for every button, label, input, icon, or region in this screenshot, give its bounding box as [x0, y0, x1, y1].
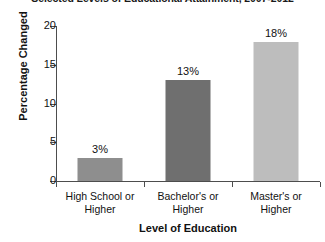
bar [166, 80, 211, 181]
bar-value-label: 3% [65, 143, 135, 155]
y-tick-label: 5 [12, 135, 56, 147]
plot-area: 3%13%18% [56, 26, 320, 181]
bar [78, 158, 123, 181]
x-tick-mark [56, 182, 57, 187]
bar-group: 13% [144, 26, 232, 181]
x-category-label: Master's orHigher [224, 190, 325, 216]
bar-group: 3% [56, 26, 144, 181]
x-category-label-line: Higher [224, 203, 325, 216]
x-category-label-line: Master's or [224, 190, 325, 203]
chart-title: Selected Levels of Educational Attainmen… [0, 0, 325, 4]
y-tick-20: 20 [0, 26, 56, 27]
bar [254, 42, 299, 182]
bar-chart-figure: Selected Levels of Educational Attainmen… [0, 0, 325, 242]
y-tick-5: 5 [0, 142, 56, 143]
y-tick-label: 15 [12, 58, 56, 70]
x-axis-line [56, 181, 320, 182]
x-axis-title: Level of Education [56, 222, 320, 234]
bar-group: 18% [232, 26, 320, 181]
y-tick-label: 10 [12, 97, 56, 109]
y-tick-label: 0 [12, 174, 56, 186]
y-tick-0: 0 [0, 181, 56, 182]
bar-value-label: 18% [241, 27, 311, 39]
y-tick-label: 20 [12, 19, 56, 31]
x-tick-mark [144, 182, 145, 187]
y-tick-15: 15 [0, 65, 56, 66]
y-tick-10: 10 [0, 104, 56, 105]
x-tick-mark [320, 182, 321, 187]
x-tick-mark [232, 182, 233, 187]
bar-value-label: 13% [153, 65, 223, 77]
